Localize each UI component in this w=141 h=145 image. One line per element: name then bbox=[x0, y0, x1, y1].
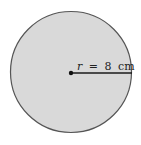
equals-sign: = bbox=[89, 60, 98, 73]
radius-variable: r bbox=[77, 60, 83, 73]
circle-diagram: r = 8 cm bbox=[0, 0, 141, 145]
radius-label: r = 8 cm bbox=[77, 60, 135, 73]
radius-unit: cm bbox=[118, 60, 135, 73]
circle-svg: r = 8 cm bbox=[0, 0, 141, 145]
radius-value: 8 bbox=[104, 60, 111, 73]
center-point bbox=[69, 71, 73, 75]
